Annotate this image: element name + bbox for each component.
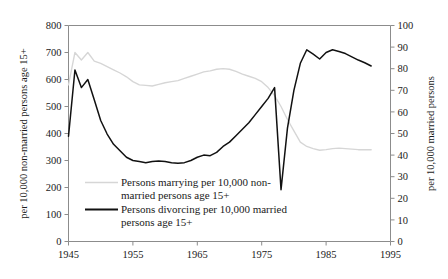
legend-label-line1: Persons divorcing per 10,000 married (121, 203, 287, 215)
dual-axis-line-chart: 0100200300400500600700800 01020304050607… (0, 0, 448, 279)
x-tick-label: 1955 (122, 249, 143, 260)
left-tick-label: 500 (46, 101, 62, 112)
right-tick-label: 0 (398, 236, 403, 247)
chart-figure: 0100200300400500600700800 01020304050607… (0, 0, 448, 279)
left-tick-label: 300 (46, 155, 62, 166)
x-tick-label: 1985 (316, 249, 337, 260)
left-axis-tick-labels: 0100200300400500600700800 (46, 20, 62, 247)
left-tick-label: 800 (46, 20, 62, 31)
x-tick-label: 1965 (187, 249, 208, 260)
right-tick-label: 80 (398, 63, 409, 74)
right-tick-label: 40 (398, 150, 409, 161)
x-tick-label: 1995 (380, 249, 401, 260)
legend-label-line2: married persons age 15+ (121, 189, 230, 201)
right-tick-label: 10 (398, 215, 409, 226)
legend-label-line1: Persons marrying per 10,000 non- (121, 176, 271, 188)
right-tick-label: 20 (398, 193, 409, 204)
right-tick-label: 90 (398, 42, 409, 53)
legend-label-line2: persons age 15+ (121, 216, 193, 228)
left-tick-label: 100 (46, 209, 62, 220)
right-tick-label: 70 (398, 85, 409, 96)
left-axis-title: per 10,000 non-married persons age 15+ (18, 48, 29, 218)
right-tick-label: 30 (398, 171, 409, 182)
right-tick-label: 50 (398, 128, 409, 139)
right-axis-title: per 10,000 married persons (425, 76, 436, 191)
left-tick-label: 400 (46, 128, 62, 139)
chart-background (0, 0, 448, 279)
right-tick-label: 100 (398, 20, 414, 31)
x-tick-label: 1975 (251, 249, 272, 260)
x-tick-label: 1945 (58, 249, 79, 260)
left-tick-label: 600 (46, 74, 62, 85)
left-tick-label: 0 (56, 236, 61, 247)
right-tick-label: 60 (398, 107, 409, 118)
left-tick-label: 700 (46, 47, 62, 58)
left-tick-label: 200 (46, 182, 62, 193)
